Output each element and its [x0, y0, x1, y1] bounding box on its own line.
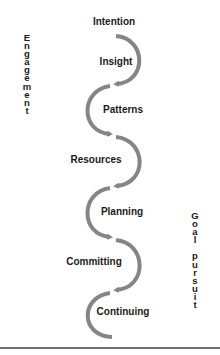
stage-label-planning: Planning	[101, 206, 143, 218]
goal-pursuit-axis-label: Goal pursuit	[189, 212, 201, 309]
serpentine-arrow-path	[0, 0, 220, 355]
stage-label-intention: Intention	[93, 16, 135, 28]
axis-letter: t	[21, 107, 33, 115]
engagement-goal-pursuit-diagram: Intention Insight Patterns Resources Pla…	[0, 0, 220, 355]
stage-label-resources: Resources	[70, 154, 121, 166]
bottom-divider	[0, 347, 220, 349]
stage-label-insight: Insight	[100, 56, 133, 68]
engagement-axis-label: Engagement	[21, 34, 33, 115]
stage-label-continuing: Continuing	[97, 306, 150, 318]
stage-label-patterns: Patterns	[103, 104, 143, 116]
stage-label-committing: Committing	[66, 256, 122, 268]
axis-letter: t	[189, 301, 201, 309]
